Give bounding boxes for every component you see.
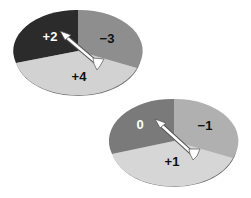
spinner-2: 0 −1 +1 [109,99,239,187]
sector-label: +2 [43,29,58,44]
sector-label: +4 [72,69,88,84]
spinners-diagram: +2 −3 +4 0 −1 +1 [0,0,251,198]
sector-label: −1 [198,118,213,133]
sector-label: −3 [100,31,115,46]
sector-label: +1 [165,154,180,169]
spinner-1: +2 −3 +4 [13,10,142,96]
sector-label: 0 [136,117,143,132]
